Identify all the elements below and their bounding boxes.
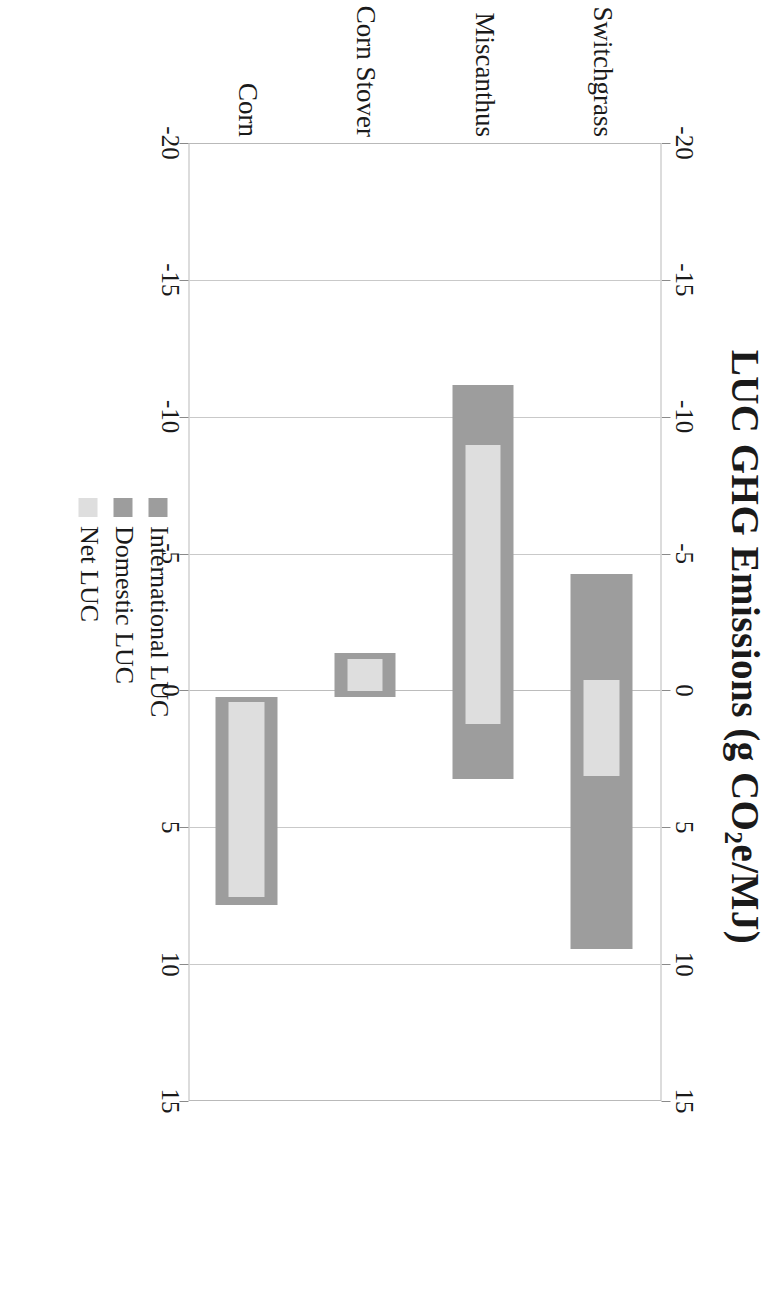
chart-title: LUC GHG Emissions (g CO2e/MJ) — [719, 0, 767, 1294]
axis-tick-label--10: -10 — [671, 400, 695, 433]
bar-net-corn — [228, 702, 263, 896]
axis-tick-label-15: 15 — [671, 1089, 695, 1114]
bar-net-switchgrass — [583, 680, 618, 776]
axis-tick-label-5: 5 — [157, 821, 181, 834]
axis-tick-label--20: -20 — [157, 126, 181, 159]
gridline--10 — [189, 417, 660, 418]
gridline-10 — [189, 964, 660, 965]
bar-net-miscanthus — [465, 445, 500, 724]
chart-legend: International LUCDomestic LUCNet LUC — [75, 498, 171, 717]
chart-title-pre: LUC GHG Emissions (g CO — [723, 350, 766, 832]
axis-tick-label--10: -10 — [157, 400, 181, 433]
chart-figure: LUC GHG Emissions (g CO2e/MJ) -20-15-10-… — [0, 0, 777, 1294]
axis-tickmark-0 — [661, 690, 670, 691]
value-axis-top-tickmarks — [661, 143, 670, 1101]
legend-label: Domestic LUC — [110, 526, 136, 684]
axis-tick-label-10: 10 — [157, 952, 181, 977]
axis-tickmark-15 — [661, 1101, 670, 1102]
axis-tick-label--20: -20 — [671, 126, 695, 159]
legend-swatch-icon — [149, 498, 168, 517]
category-label-corn-stover: Corn Stover — [350, 6, 381, 137]
axis-tickmark--15 — [661, 280, 670, 281]
chart-title-subscript: 2 — [720, 831, 747, 844]
category-label-miscanthus: Miscanthus — [468, 13, 499, 138]
axis-tickmark-5 — [661, 827, 670, 828]
axis-tick-label-15: 15 — [157, 1089, 181, 1114]
legend-item-net-luc: Net LUC — [75, 498, 101, 717]
chart-title-post: e/MJ) — [723, 844, 766, 944]
gridline--5 — [189, 554, 660, 555]
axis-tick-label--15: -15 — [671, 263, 695, 296]
category-label-switchgrass: Switchgrass — [586, 7, 617, 138]
axis-tickmark--20 — [661, 143, 670, 144]
legend-swatch-icon — [114, 498, 133, 517]
gridline--15 — [189, 280, 660, 281]
plot-area — [188, 143, 661, 1101]
axis-tick-label-5: 5 — [671, 821, 695, 834]
legend-label: Net LUC — [75, 526, 101, 622]
legend-swatch-icon — [79, 498, 98, 517]
axis-tick-label--5: -5 — [671, 543, 695, 564]
axis-tick-label-0: 0 — [671, 684, 695, 697]
axis-tickmark-10 — [661, 964, 670, 965]
axis-tick-label--15: -15 — [157, 263, 181, 296]
bar-net-corn-stover — [347, 659, 382, 692]
axis-tickmark--5 — [661, 554, 670, 555]
value-axis-top: -20-15-10-5051015 — [671, 143, 695, 1101]
legend-item-international-luc: International LUC — [145, 498, 171, 717]
axis-tickmark--10 — [661, 417, 670, 418]
axis-tick-label-10: 10 — [671, 952, 695, 977]
legend-item-domestic-luc: Domestic LUC — [110, 498, 136, 717]
legend-label: International LUC — [145, 526, 171, 717]
category-label-corn: Corn — [232, 83, 263, 137]
